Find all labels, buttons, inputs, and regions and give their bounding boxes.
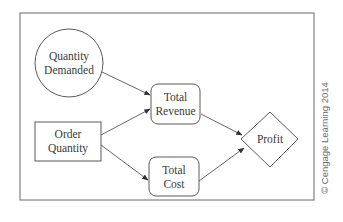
node-label-line-1: Total xyxy=(162,164,185,176)
node-profit: Profit xyxy=(241,112,298,167)
rounded-rectangle-shape xyxy=(149,157,199,196)
circle-shape xyxy=(35,29,103,97)
copyright-credit: © Cengage Learning 2014 xyxy=(319,82,330,194)
edge-quantity-demanded-to-total-revenue xyxy=(102,72,150,95)
node-total-cost: Total Cost xyxy=(149,157,199,196)
edge-order-quantity-to-total-revenue xyxy=(101,109,150,135)
edge-order-quantity-to-total-cost xyxy=(101,145,148,180)
rounded-rectangle-shape xyxy=(151,84,200,124)
node-label-line-2: Cost xyxy=(163,178,185,190)
node-label-line-2: Revenue xyxy=(155,105,195,117)
edge-total-revenue-to-profit xyxy=(201,114,242,135)
node-label: Profit xyxy=(257,133,284,145)
node-total-revenue: Total Revenue xyxy=(151,84,200,124)
node-label-line-2: Quantity xyxy=(48,142,88,155)
node-label-line-1: Quantity xyxy=(49,50,89,63)
edge-total-cost-to-profit xyxy=(199,148,244,181)
node-label-line-1: Order xyxy=(55,128,82,140)
node-order-quantity: Order Quantity xyxy=(35,122,101,161)
node-label-line-2: Demanded xyxy=(44,64,94,76)
node-quantity-demanded: Quantity Demanded xyxy=(35,29,103,97)
node-label-line-1: Total xyxy=(164,91,187,103)
influence-diagram: Quantity Demanded Order Quantity Total R… xyxy=(0,0,343,222)
